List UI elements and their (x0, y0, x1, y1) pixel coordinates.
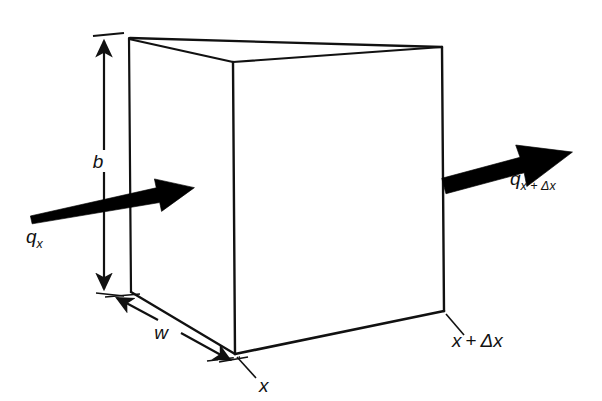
position-right-var: x (451, 330, 463, 351)
height-dimension-label: b (93, 151, 104, 172)
cube-edge-left-vertical (129, 38, 131, 292)
position-left-label: x (258, 375, 270, 396)
position-right-group: x+Δx (446, 314, 504, 351)
flux-in-arrow (28, 175, 196, 224)
cube-edge-center-vertical (233, 62, 235, 354)
cube-edge-bottom-right (235, 311, 444, 354)
position-right-label: x+Δx (451, 330, 504, 351)
flux-out-arrow (438, 131, 578, 207)
cube-edge-top-front-right (233, 47, 442, 62)
cube-edge-top-back (130, 38, 442, 47)
width-dimension-label: w (154, 322, 169, 343)
flux-in-symbol: q (26, 226, 37, 247)
control-volume-diagram: b w qx qx + Δx (0, 0, 602, 401)
height-dimension-group: b (93, 33, 124, 296)
position-left-leader (237, 357, 256, 378)
flux-out-subscript: x + Δx (520, 179, 557, 193)
position-right-operator: + (466, 330, 477, 351)
cube-edge-top-front-left (129, 39, 233, 62)
flux-in-group: qx (26, 175, 196, 251)
flux-out-symbol: q (510, 168, 521, 189)
flux-in-label: qx (26, 226, 44, 251)
flux-out-group: qx + Δx (438, 131, 578, 207)
width-arrow-upleft (117, 298, 158, 320)
position-left-group: x (207, 357, 270, 396)
cube-edge-bottom-left (131, 292, 235, 354)
diagram-canvas: b w qx qx + Δx (0, 0, 602, 401)
flux-in-subscript: x (36, 237, 44, 251)
position-right-delta: Δx (480, 330, 505, 351)
width-dimension-group: w (105, 294, 248, 362)
height-tick-top (93, 33, 124, 36)
